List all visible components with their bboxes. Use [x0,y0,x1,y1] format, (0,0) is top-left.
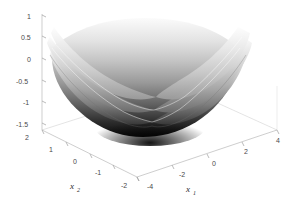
z-tick-label: -1 [23,99,29,106]
y-axis-label-text: x [69,181,74,191]
z-tick-label: 1 [27,13,31,20]
x-tick-label: -4 [147,183,153,190]
z-tick-label: -1.5 [16,121,28,128]
y-tick-labels: 2 1 0 -1 -2 [25,134,127,189]
x-tick-label: 4 [276,137,280,144]
z-tick-label: -0.5 [16,78,28,85]
y-tick-label: 2 [25,134,29,141]
x-axis-label-text: x [185,184,190,194]
y-tick-label: 1 [49,146,53,153]
surface-mesh [47,18,252,146]
x-tick-label: 0 [212,160,216,167]
surface-plot-canvas: 1 0.5 0 -0.5 -1 -1.5 2 1 0 -1 -2 -4 -2 0… [0,0,289,202]
z-tick-marks [42,15,46,125]
y-axis-label-subscript: 2 [77,187,80,193]
y-axis-label: x 2 [69,181,80,193]
y-tick-label: 0 [73,158,77,165]
x-axis-label: x 1 [185,184,196,196]
z-tick-labels: 1 0.5 0 -0.5 -1 -1.5 [16,13,31,128]
z-tick-label: 0.5 [21,34,31,41]
x-tick-label: -2 [179,171,185,178]
y-tick-label: -2 [121,182,127,189]
y-tick-label: -1 [95,169,101,176]
z-tick-label: 0 [27,56,31,63]
x-tick-label: 2 [244,148,248,155]
x-axis-label-subscript: 1 [193,190,196,196]
surface-plot-figure: 1 0.5 0 -0.5 -1 -1.5 2 1 0 -1 -2 -4 -2 0… [0,0,289,202]
